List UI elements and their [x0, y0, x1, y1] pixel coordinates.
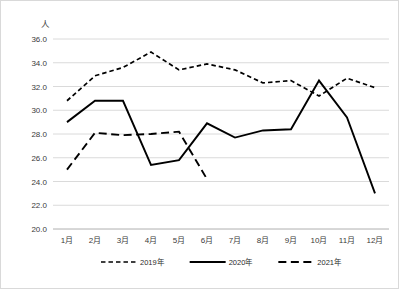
x-axis-tick-label: 7月	[229, 236, 241, 245]
chart-legend: 2019年2020年2021年	[101, 257, 342, 267]
y-axis-tick-label: 24.0	[31, 178, 47, 187]
x-axis-tick-label: 6月	[201, 236, 213, 245]
y-axis-tick-label: 34.0	[31, 59, 47, 68]
y-axis-tick-labels: 36.034.032.030.028.026.024.022.020.0	[31, 35, 47, 234]
series-line-2021年	[67, 132, 207, 180]
x-axis-tick-labels: 1月2月3月4月5月6月7月8月9月10月11月12月	[61, 236, 384, 245]
x-axis-tick-label: 1月	[61, 236, 73, 245]
line-chart: 人 36.034.032.030.028.026.024.022.020.0 1…	[1, 1, 399, 289]
y-axis-tick-label: 30.0	[31, 106, 47, 115]
x-axis-tick-label: 5月	[173, 236, 185, 245]
data-series-group	[67, 52, 375, 193]
y-axis-tick-label: 32.0	[31, 83, 47, 92]
x-axis-tick-label: 9月	[285, 236, 297, 245]
x-axis-tick-label: 10月	[311, 236, 328, 245]
legend-label-2020年: 2020年	[229, 257, 254, 267]
x-axis-tick-label: 12月	[367, 236, 384, 245]
legend-label-2021年: 2021年	[317, 257, 342, 267]
series-line-2020年	[67, 81, 375, 194]
legend-label-2019年: 2019年	[140, 257, 165, 267]
y-axis-tick-label: 28.0	[31, 130, 47, 139]
y-axis-tick-label: 22.0	[31, 201, 47, 210]
x-axis-tick-label: 3月	[117, 236, 129, 245]
legend-item-2019年[interactable]: 2019年	[101, 257, 165, 267]
chart-container: 人 36.034.032.030.028.026.024.022.020.0 1…	[0, 0, 399, 289]
y-axis-tick-label: 26.0	[31, 154, 47, 163]
legend-item-2021年[interactable]: 2021年	[278, 257, 342, 267]
y-axis-tick-label: 20.0	[31, 225, 47, 234]
y-axis-tick-label: 36.0	[31, 35, 47, 44]
x-axis-tick-label: 4月	[145, 236, 157, 245]
y-axis-unit-label: 人	[41, 19, 50, 29]
legend-item-2020年[interactable]: 2020年	[190, 257, 254, 267]
x-axis-tick-label: 8月	[257, 236, 269, 245]
x-axis-tick-label: 2月	[89, 236, 101, 245]
x-axis-tick-label: 11月	[339, 236, 355, 245]
